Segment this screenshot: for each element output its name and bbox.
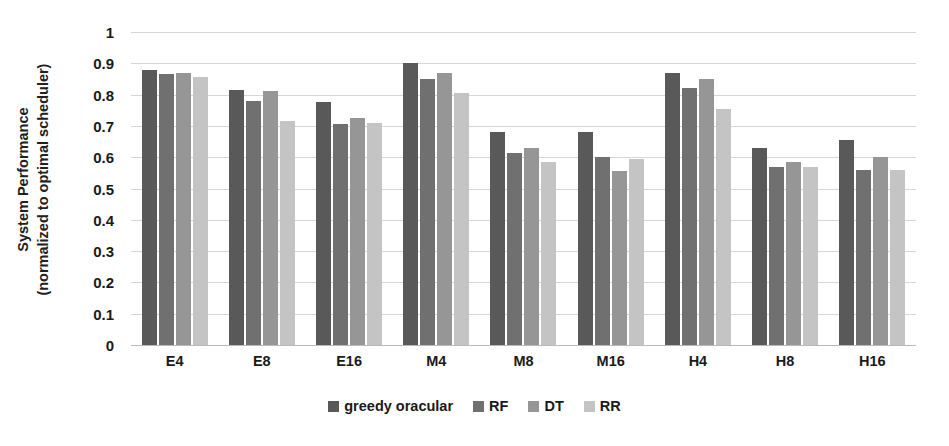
x-axis-tick-label: M8	[480, 349, 567, 379]
bar-group	[829, 32, 916, 345]
bar[interactable]	[263, 91, 278, 345]
bar[interactable]	[316, 102, 331, 345]
y-axis-tick-label: 0.7	[93, 117, 114, 134]
bar[interactable]	[699, 79, 714, 345]
bar-group	[480, 32, 567, 345]
legend-swatch-icon	[328, 401, 339, 412]
axis-baseline	[131, 345, 916, 346]
legend-label: greedy oracular	[344, 398, 453, 414]
bar[interactable]	[159, 74, 174, 345]
bar[interactable]	[176, 73, 191, 345]
plot-area	[131, 32, 916, 345]
bar-group	[218, 32, 305, 345]
bar[interactable]	[246, 101, 261, 345]
bar[interactable]	[839, 140, 854, 345]
y-axis-tick-label: 0.6	[93, 149, 114, 166]
bar[interactable]	[229, 90, 244, 345]
bar[interactable]	[350, 118, 365, 345]
y-axis-tick-label: 0.2	[93, 274, 114, 291]
y-axis-tick-label: 0.9	[93, 55, 114, 72]
bar[interactable]	[578, 132, 593, 345]
bar[interactable]	[786, 162, 801, 345]
bar[interactable]	[716, 109, 731, 345]
x-axis-tick-label: E8	[218, 349, 305, 379]
bar[interactable]	[803, 167, 818, 345]
bar[interactable]	[541, 162, 556, 345]
bar[interactable]	[193, 77, 208, 345]
legend-item[interactable]: greedy oracular	[328, 398, 453, 414]
bar[interactable]	[420, 79, 435, 345]
legend: greedy oracularRFDTRR	[0, 398, 949, 414]
legend-item[interactable]: RR	[584, 398, 621, 414]
x-axis-tick-labels: E4E8E16M4M8M16H4H8H16	[131, 349, 916, 379]
bar[interactable]	[367, 123, 382, 345]
bar[interactable]	[873, 157, 888, 345]
legend-swatch-icon	[473, 401, 484, 412]
x-axis-tick-label: H8	[742, 349, 829, 379]
bar[interactable]	[856, 170, 871, 345]
legend-swatch-icon	[584, 401, 595, 412]
y-axis-tick-label: 0.8	[93, 86, 114, 103]
bar-group	[393, 32, 480, 345]
bar[interactable]	[454, 93, 469, 345]
bar[interactable]	[403, 63, 418, 345]
y-axis-tick-labels: 10.90.80.70.60.50.40.30.20.10	[62, 32, 122, 345]
legend-label: RR	[600, 398, 621, 414]
bar[interactable]	[629, 159, 644, 345]
bar[interactable]	[665, 73, 680, 345]
bar[interactable]	[142, 70, 157, 345]
y-axis-tick-label: 1	[106, 24, 114, 41]
bar[interactable]	[890, 170, 905, 345]
bar[interactable]	[524, 148, 539, 345]
y-axis-title-line2: (normalized to optimal scheduler)	[34, 64, 54, 296]
legend-item[interactable]: RF	[473, 398, 508, 414]
bar[interactable]	[507, 153, 522, 345]
chart-page: System Performance (normalized to optima…	[0, 0, 949, 446]
x-axis-tick-label: H4	[654, 349, 741, 379]
x-axis-tick-label: E4	[131, 349, 218, 379]
bar[interactable]	[437, 73, 452, 345]
y-axis-tick-label: 0	[106, 337, 114, 354]
y-axis-tick-label: 0.5	[93, 180, 114, 197]
bar[interactable]	[612, 171, 627, 345]
bar[interactable]	[595, 157, 610, 345]
bar[interactable]	[490, 132, 505, 345]
bar-group	[131, 32, 218, 345]
x-axis-tick-label: M4	[393, 349, 480, 379]
bar[interactable]	[769, 167, 784, 345]
x-axis-tick-label: E16	[305, 349, 392, 379]
bar[interactable]	[682, 88, 697, 345]
legend-swatch-icon	[528, 401, 539, 412]
y-axis-title-line1: System Performance	[14, 64, 34, 296]
y-axis-tick-label: 0.3	[93, 243, 114, 260]
legend-label: RF	[489, 398, 508, 414]
bar-group	[305, 32, 392, 345]
bar[interactable]	[333, 124, 348, 345]
bar-group	[567, 32, 654, 345]
legend-item[interactable]: DT	[528, 398, 563, 414]
bar[interactable]	[752, 148, 767, 345]
legend-label: DT	[544, 398, 563, 414]
bar[interactable]	[280, 121, 295, 345]
bar-groups	[131, 32, 916, 345]
x-axis-tick-label: H16	[829, 349, 916, 379]
bar-group	[654, 32, 741, 345]
y-axis-tick-label: 0.4	[93, 211, 114, 228]
y-axis-title: System Performance (normalized to optima…	[6, 0, 62, 360]
bar-group	[742, 32, 829, 345]
y-axis-tick-label: 0.1	[93, 305, 114, 322]
x-axis-tick-label: M16	[567, 349, 654, 379]
